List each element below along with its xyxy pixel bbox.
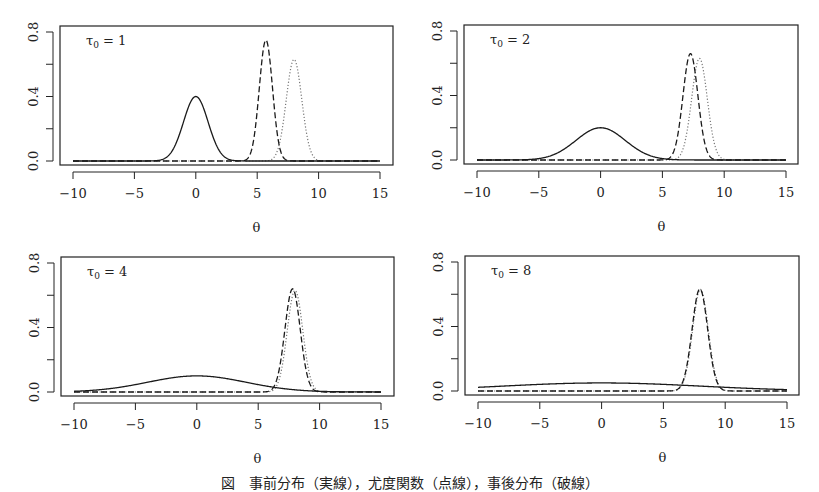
x-tick-label: −5	[530, 416, 549, 431]
x-axis: −10−5051015θ	[60, 403, 389, 466]
curve-prior	[73, 97, 380, 162]
curve-likelihood	[478, 289, 787, 391]
x-tick-label: −5	[125, 186, 144, 201]
y-axis: 0.00.40.8	[430, 21, 457, 171]
x-tick-label: 10	[716, 185, 733, 200]
x-tick-label: −10	[463, 185, 490, 200]
y-tick-label: 0.4	[26, 86, 41, 107]
x-tick-label: 5	[659, 416, 667, 431]
curve-posterior	[477, 54, 786, 160]
y-tick-label: 0.8	[26, 22, 41, 43]
x-axis-title: θ	[254, 451, 262, 466]
y-axis: 0.00.40.8	[26, 22, 53, 172]
x-tick-label: 15	[779, 416, 796, 431]
x-axis-title: θ	[658, 219, 666, 234]
curve-prior	[478, 383, 787, 390]
y-tick-label: 0.8	[431, 252, 446, 273]
y-tick-label: 0.4	[430, 85, 445, 106]
x-axis-title: θ	[253, 220, 261, 235]
x-tick-label: 5	[658, 185, 666, 200]
x-tick-label: 10	[310, 186, 327, 201]
y-tick-label: 0.0	[430, 150, 445, 171]
curve-posterior	[73, 40, 380, 161]
panel-annotation: τ0 = 4	[87, 264, 127, 281]
panel-tau0-2: −10−5051015θ0.00.40.8τ0 = 2	[430, 21, 798, 234]
x-axis: −10−5051015θ	[464, 402, 795, 465]
y-tick-label: 0.0	[431, 381, 446, 402]
panel-annotation: τ0 = 2	[490, 32, 530, 49]
y-axis: 0.00.40.8	[431, 252, 458, 402]
x-tick-label: 5	[254, 417, 262, 432]
x-tick-label: 0	[597, 416, 605, 431]
x-tick-label: 5	[253, 186, 261, 201]
x-tick-label: −5	[529, 185, 548, 200]
y-tick-label: 0.0	[26, 151, 41, 172]
x-tick-label: −10	[464, 416, 491, 431]
y-tick-label: 0.8	[430, 21, 445, 42]
panel-tau0-1: −10−5051015θ0.00.40.8τ0 = 1	[26, 22, 393, 235]
curve-likelihood	[74, 290, 381, 392]
panel-annotation: τ0 = 8	[491, 263, 531, 280]
x-axis: −10−5051015θ	[463, 171, 794, 234]
x-tick-label: 10	[717, 416, 734, 431]
y-tick-label: 0.4	[431, 316, 446, 337]
x-tick-label: −5	[126, 417, 145, 432]
curve-prior	[477, 128, 786, 160]
x-tick-label: 10	[311, 417, 328, 432]
panel-tau0-8: −10−5051015θ0.00.40.8τ0 = 8	[431, 252, 799, 465]
x-tick-label: 15	[373, 417, 390, 432]
x-tick-label: −10	[59, 186, 86, 201]
curve-prior	[74, 376, 381, 392]
panel-annotation: τ0 = 1	[86, 33, 126, 50]
figure-caption: 図 事前分布（実線），尤度関数（点線），事後分布（破線）	[0, 472, 819, 492]
curve-likelihood	[73, 59, 380, 161]
y-tick-label: 0.8	[27, 253, 42, 274]
x-tick-label: −10	[60, 417, 87, 432]
x-axis: −10−5051015θ	[59, 172, 388, 235]
x-tick-label: 0	[596, 185, 604, 200]
curve-posterior	[74, 289, 381, 392]
x-tick-label: 0	[193, 417, 201, 432]
panel-tau0-4: −10−5051015θ0.00.40.8τ0 = 4	[27, 253, 394, 466]
x-tick-label: 15	[372, 186, 389, 201]
y-tick-label: 0.4	[27, 317, 42, 338]
y-axis: 0.00.40.8	[27, 253, 54, 403]
y-tick-label: 0.0	[27, 382, 42, 403]
x-tick-label: 0	[192, 186, 200, 201]
x-axis-title: θ	[659, 450, 667, 465]
curve-posterior	[478, 289, 787, 391]
x-tick-label: 15	[778, 185, 795, 200]
